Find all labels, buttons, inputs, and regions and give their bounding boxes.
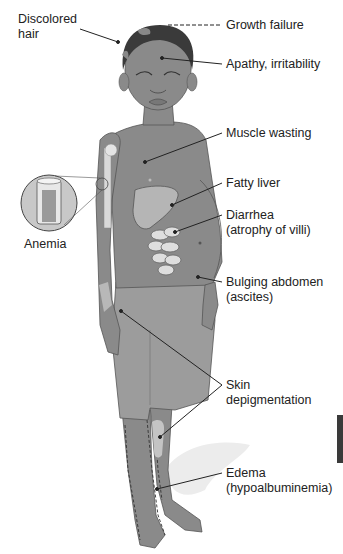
label-line: (atrophy of villi) bbox=[226, 223, 311, 238]
label-line: hair bbox=[18, 27, 77, 42]
label-line: depigmentation bbox=[226, 393, 311, 408]
label-diarrhea: Diarrhea (atrophy of villi) bbox=[226, 208, 311, 238]
label-muscle-wasting: Muscle wasting bbox=[226, 126, 311, 141]
label-skin-depigmentation: Skin depigmentation bbox=[226, 378, 311, 408]
label-line: Edema bbox=[226, 466, 332, 481]
right-arm bbox=[202, 282, 218, 330]
label-line: (hypoalbuminemia) bbox=[226, 481, 332, 496]
label-line: (ascites) bbox=[226, 290, 323, 305]
label-growth-failure: Growth failure bbox=[226, 18, 304, 33]
label-line: Diarrhea bbox=[226, 208, 311, 223]
label-discolored-hair: Discolored hair bbox=[18, 12, 77, 42]
shorts bbox=[112, 282, 215, 420]
label-apathy: Apathy, irritability bbox=[226, 57, 320, 72]
label-fatty-liver: Fatty liver bbox=[226, 176, 280, 191]
label-line: Discolored bbox=[18, 12, 77, 27]
label-anemia: Anemia bbox=[24, 237, 66, 252]
label-line: Skin bbox=[226, 378, 311, 393]
humerus-bone bbox=[104, 148, 111, 228]
page-edge-tab bbox=[337, 415, 343, 463]
label-edema: Edema (hypoalbuminemia) bbox=[226, 466, 332, 496]
label-line: Bulging abdomen bbox=[226, 275, 323, 290]
label-bulging-abdomen: Bulging abdomen (ascites) bbox=[226, 275, 323, 305]
